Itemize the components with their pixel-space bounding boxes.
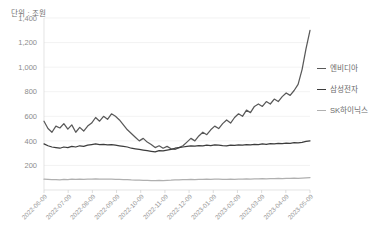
x-axis: 2022-06-092022-07-092022-08-092022-09-09… — [20, 190, 314, 221]
x-axis-tick-label: 2022-10-09 — [117, 192, 145, 220]
series-line — [44, 30, 310, 149]
y-axis: 2004006008001,0001,2001,400 — [18, 14, 44, 190]
series-line — [44, 141, 310, 152]
legend-swatch-icon — [317, 68, 326, 69]
y-axis-tick-label: 800 — [24, 87, 37, 96]
line-chart: 단위 : 조원 2004006008001,0001,2001,400 2022… — [0, 0, 384, 244]
legend-item[interactable]: SK하이닉스 — [317, 100, 384, 121]
legend-item-label: SK하이닉스 — [330, 107, 368, 115]
legend-swatch-icon — [317, 110, 326, 111]
x-axis-tick-label: 2023-05-09 — [286, 192, 314, 220]
series-line — [44, 178, 310, 181]
chart-plot-area: 2004006008001,0001,2001,400 2022-06-0920… — [0, 0, 384, 244]
y-axis-tick-label: 600 — [24, 112, 37, 121]
legend-item[interactable]: 엔비디아 — [317, 58, 384, 79]
legend-item-label: 엔비디아 — [330, 65, 358, 73]
y-axis-tick-label: 1,200 — [18, 38, 37, 47]
chart-legend: 엔비디아삼성전자SK하이닉스 — [317, 58, 384, 121]
legend-swatch-icon — [317, 89, 326, 90]
y-axis-tick-label: 200 — [24, 161, 37, 170]
y-axis-tick-label: 1,000 — [18, 63, 37, 72]
y-axis-tick-label: 1,400 — [18, 14, 37, 23]
y-axis-tick-label: 400 — [24, 137, 37, 146]
legend-item[interactable]: 삼성전자 — [317, 79, 384, 100]
data-series — [44, 30, 310, 180]
legend-item-label: 삼성전자 — [330, 86, 358, 94]
